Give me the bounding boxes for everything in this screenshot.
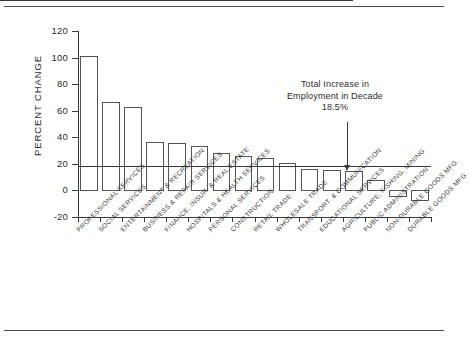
chart-page: -20020406080100120 PERCENT CHANGE Total …: [0, 0, 448, 341]
x-axis-category-labels: PROFESSIONAL SERVICESSOCIAL SERVICESENTE…: [0, 0, 448, 341]
